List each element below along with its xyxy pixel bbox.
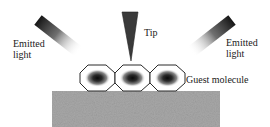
guest-molecule-2 (115, 65, 150, 91)
stm-tip-icon (122, 12, 138, 61)
stm-light-emission-diagram: Emitted light Tip Emitted light Guest mo… (0, 0, 270, 127)
substrate (52, 91, 220, 127)
emitted-right-line2: light (226, 48, 258, 59)
emitted-left-line2: light (13, 49, 45, 60)
guest-molecule-3 (150, 65, 185, 91)
diagram-canvas (0, 0, 270, 127)
tip-label: Tip (144, 27, 158, 38)
emitted-right-line1: Emitted (226, 37, 258, 48)
emitted-left-line1: Emitted (13, 38, 45, 49)
guest-molecule-label: Guest molecule (186, 74, 248, 85)
emitted-light-left-label: Emitted light (13, 38, 45, 60)
emitted-light-right-label: Emitted light (226, 37, 258, 59)
guest-molecule-1 (80, 65, 115, 91)
